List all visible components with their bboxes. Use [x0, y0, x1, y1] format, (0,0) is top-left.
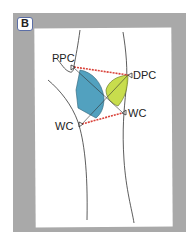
blue-region	[76, 70, 104, 118]
anatomy-diagram: PPC DPC WC WC	[0, 0, 196, 245]
dpc-marker-icon	[128, 73, 132, 78]
label-wc-left: WC	[55, 120, 73, 132]
label-ppc: PPC	[52, 52, 75, 64]
label-wc-right: WC	[128, 107, 146, 119]
limb-outline-left-upper	[74, 30, 80, 66]
wc-left-marker-icon	[79, 122, 83, 127]
label-dpc: DPC	[133, 69, 156, 81]
limb-outline-right	[123, 32, 134, 223]
red-line-lower	[82, 113, 122, 124]
